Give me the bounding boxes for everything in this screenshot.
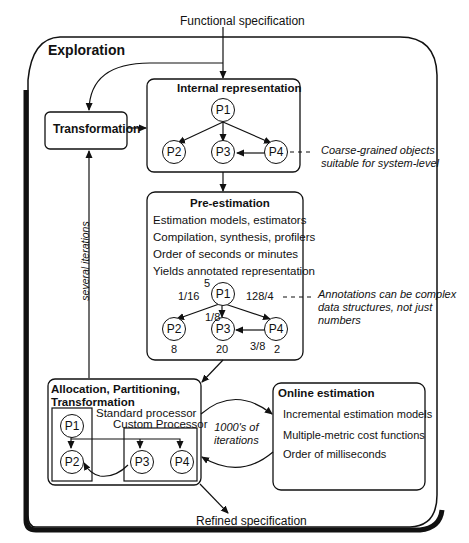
several-iterations-label: several iterations bbox=[79, 206, 91, 316]
node-p1: P1 bbox=[60, 414, 84, 438]
node-p4: P4 bbox=[264, 317, 288, 341]
node-p3: P3 bbox=[211, 140, 235, 164]
allocation-title: Allocation, Partitioning, Transformation bbox=[51, 383, 180, 409]
annotation-p3-value: 20 bbox=[216, 343, 228, 355]
annotations-note: Annotations can be complex data structur… bbox=[318, 288, 456, 327]
annotation-p1-value: 5 bbox=[204, 277, 210, 289]
annotation-p1-p3: 1/8 bbox=[205, 311, 220, 323]
exploration-title: Exploration bbox=[48, 42, 125, 58]
node-p4: P4 bbox=[264, 140, 288, 164]
node-p2: P2 bbox=[162, 140, 186, 164]
internal-representation-title: Internal representation bbox=[177, 82, 302, 94]
online-estimation-title: Online estimation bbox=[278, 387, 375, 399]
pre-estimation-line: Yields annotated representation bbox=[153, 265, 315, 277]
transformation-box: Transformation bbox=[53, 122, 140, 136]
annotation-p1-p4: 128/4 bbox=[246, 290, 274, 302]
online-estimation-line: Incremental estimation models bbox=[283, 408, 432, 420]
node-p2: P2 bbox=[162, 317, 186, 341]
thousands-iterations-label: 1000's of iterations bbox=[214, 421, 259, 447]
pre-estimation-line: Compilation, synthesis, profilers bbox=[153, 231, 315, 243]
node-p1: P1 bbox=[211, 282, 235, 306]
node-p3: P3 bbox=[130, 450, 154, 474]
refined-specification-label: Refined specification bbox=[196, 514, 307, 528]
annotation-p1-p2: 1/16 bbox=[178, 290, 199, 302]
node-p2: P2 bbox=[60, 450, 84, 474]
pre-estimation-title: Pre-estimation bbox=[190, 197, 270, 209]
node-p1: P1 bbox=[211, 98, 235, 122]
functional-specification-label: Functional specification bbox=[180, 14, 305, 28]
node-p4: P4 bbox=[170, 450, 194, 474]
pre-estimation-line: Order of seconds or minutes bbox=[153, 248, 298, 260]
pre-estimation-line: Estimation models, estimators bbox=[153, 214, 306, 226]
custom-processor-label: Custom Processor bbox=[113, 418, 208, 430]
online-estimation-line: Order of milliseconds bbox=[283, 448, 386, 460]
online-estimation-line: Multiple-metric cost functions bbox=[283, 429, 425, 441]
annotation-p4-value: 2 bbox=[274, 343, 280, 355]
annotation-p2-value: 8 bbox=[171, 343, 177, 355]
coarse-grained-note: Coarse-grained objects suitable for syst… bbox=[321, 144, 439, 170]
annotation-p4-p3: 3/8 bbox=[250, 340, 265, 352]
